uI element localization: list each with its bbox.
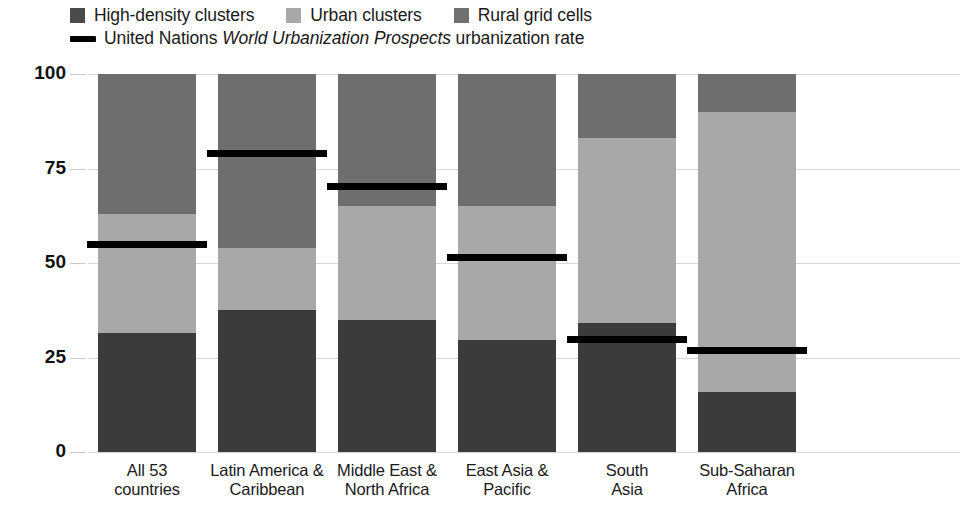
bar-segment[interactable] [98, 214, 196, 333]
bar-segment[interactable] [578, 323, 676, 452]
bar-segment[interactable] [458, 206, 556, 340]
bar-segment[interactable] [458, 340, 556, 452]
un-urbanization-rate-marker [687, 347, 807, 354]
tick-mark-50 [70, 263, 86, 264]
x-axis-category-label-line: South [557, 461, 697, 480]
x-axis-category-label-line: Middle East & [317, 461, 457, 480]
x-axis-category-label: Middle East &North Africa [317, 461, 457, 499]
bar-segment[interactable] [338, 320, 436, 452]
tick-mark-25 [70, 358, 86, 359]
x-axis-category-label-line: All 53 [77, 461, 217, 480]
bar-segment[interactable] [218, 248, 316, 310]
bar-segment[interactable] [218, 310, 316, 452]
y-axis-tick-label-50: 50 [20, 251, 66, 273]
tick-mark-0 [70, 452, 86, 453]
x-axis-category-label: East Asia &Pacific [437, 461, 577, 499]
x-axis-category-label-line: Latin America & [197, 461, 337, 480]
x-axis-category-label-line: East Asia & [437, 461, 577, 480]
bar-stack[interactable] [458, 74, 556, 452]
bar-stack[interactable] [338, 74, 436, 452]
bar-segment[interactable] [698, 74, 796, 112]
tick-mark-100 [70, 74, 86, 75]
un-urbanization-rate-marker [567, 336, 687, 343]
bar-stack[interactable] [98, 74, 196, 452]
un-urbanization-rate-marker [327, 183, 447, 190]
x-axis-category-label-line: North Africa [317, 480, 457, 499]
bar-segment[interactable] [98, 333, 196, 452]
x-axis-category-label: Sub-SaharanAfrica [677, 461, 817, 499]
chart-root: High-density clusters Urban clusters Rur… [0, 0, 960, 516]
bar-segment[interactable] [578, 74, 676, 138]
bar-segment[interactable] [98, 74, 196, 214]
y-axis-tick-label-25: 25 [20, 346, 66, 368]
bar-segment[interactable] [698, 392, 796, 452]
x-axis-category-label-line: Asia [557, 480, 697, 499]
bar-segment[interactable] [458, 74, 556, 206]
gridline-0 [88, 452, 960, 453]
un-urbanization-rate-marker [87, 241, 207, 248]
x-axis-category-label-line: Sub-Saharan [677, 461, 817, 480]
x-axis-category-label: All 53countries [77, 461, 217, 499]
x-axis-category-label-line: Pacific [437, 480, 577, 499]
bar-segment[interactable] [338, 206, 436, 319]
x-axis-category-label-line: countries [77, 480, 217, 499]
x-axis-category-label: Latin America &Caribbean [197, 461, 337, 499]
bar-segment[interactable] [218, 74, 316, 248]
y-axis-tick-label-0: 0 [20, 440, 66, 462]
un-urbanization-rate-marker [447, 254, 567, 261]
y-axis-tick-label-100: 100 [20, 62, 66, 84]
bar-stack[interactable] [698, 74, 796, 452]
plot-area: 1007550250All 53countriesLatin America &… [0, 0, 960, 516]
bar-stack[interactable] [578, 74, 676, 452]
x-axis-category-label-line: Caribbean [197, 480, 337, 499]
x-axis-category-label-line: Africa [677, 480, 817, 499]
bar-stack[interactable] [218, 74, 316, 452]
tick-mark-75 [70, 169, 86, 170]
x-axis-category-label: SouthAsia [557, 461, 697, 499]
bar-segment[interactable] [578, 138, 676, 323]
un-urbanization-rate-marker [207, 150, 327, 157]
y-axis-tick-label-75: 75 [20, 157, 66, 179]
